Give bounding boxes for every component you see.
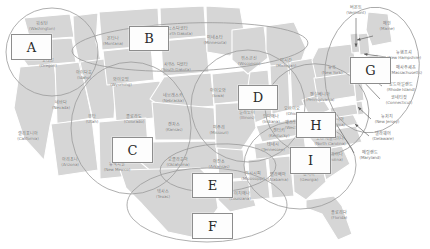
state-arizona (51, 119, 98, 176)
state-maine (366, 12, 392, 46)
region-marker-label: G (365, 63, 375, 78)
region-marker-h[interactable]: H (296, 112, 336, 138)
region-marker-e[interactable]: E (192, 173, 233, 198)
region-marker-label: D (253, 90, 263, 105)
region-marker-g[interactable]: G (350, 57, 391, 84)
region-marker-label: A (27, 40, 36, 55)
region-marker-label: C (128, 143, 138, 158)
region-marker-label: F (208, 219, 217, 234)
region-marker-b[interactable]: B (129, 26, 169, 51)
region-marker-label: E (208, 178, 218, 193)
region-marker-label: H (310, 118, 321, 133)
region-marker-c[interactable]: C (112, 137, 153, 163)
state-california (14, 64, 58, 160)
region-marker-i[interactable]: I (290, 147, 331, 174)
region-marker-label: I (308, 153, 313, 168)
region-marker-f[interactable]: F (192, 213, 233, 239)
region-marker-a[interactable]: A (11, 34, 52, 60)
us-map-graphic (0, 0, 430, 249)
region-marker-label: B (144, 31, 154, 46)
region-marker-d[interactable]: D (238, 85, 278, 110)
state-kansas (152, 102, 216, 140)
us-region-map-figure: 워싱턴(Washington)오레곤(Oregon)아이다호(Idaho)몬타나… (0, 0, 430, 249)
